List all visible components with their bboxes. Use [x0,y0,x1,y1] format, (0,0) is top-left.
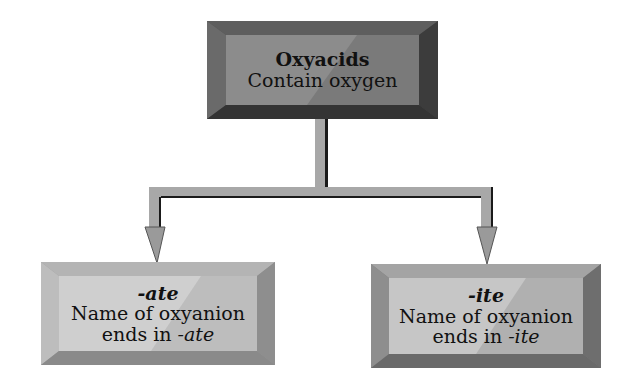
ate-line2: ends in -ate [102,324,214,345]
arrow-head-right [477,227,497,264]
ate-node: -ate Name of oxyanion ends in -ate [41,262,275,365]
root-title: Oxyacids [276,49,370,70]
oxyacids-node: Oxyacids Contain oxygen [207,21,438,119]
root-subtitle: Contain oxygen [247,70,397,91]
ite-line1: Name of oxyanion [399,306,573,327]
arrow-head-left [145,227,165,263]
ite-node: -ite Name of oxyanion ends in -ite [371,264,601,368]
ate-line1: Name of oxyanion [71,303,245,324]
ite-line2: ends in -ite [432,326,539,347]
ate-title: -ate [137,283,178,304]
ite-title: -ite [468,285,504,306]
